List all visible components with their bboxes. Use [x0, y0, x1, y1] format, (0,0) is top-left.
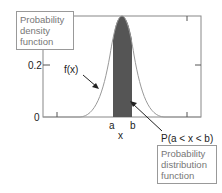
box-line: Probability: [20, 14, 70, 25]
y-tick-0: 0: [34, 112, 40, 123]
x-axis-label: x: [118, 130, 123, 141]
box-line: function: [161, 170, 213, 181]
a-label: a: [109, 120, 115, 131]
y-tick-0.2: 0.2: [28, 60, 42, 71]
box-line: function: [20, 36, 70, 47]
probability-label: P(a < x < b): [161, 133, 213, 144]
cdf-annotation-box: Probability distribution function: [157, 145, 217, 184]
box-line: Probability: [161, 148, 213, 159]
box-line: distribution: [161, 159, 213, 170]
fx-label: f(x): [64, 64, 78, 75]
pdf-annotation-box: Probability density function: [16, 11, 74, 50]
b-label: b: [130, 120, 136, 131]
box-line: density: [20, 25, 70, 36]
